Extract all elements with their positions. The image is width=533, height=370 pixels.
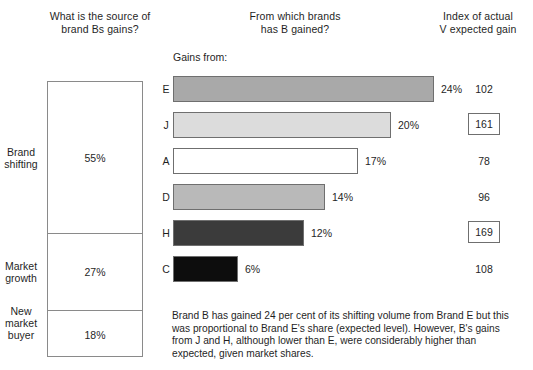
source-segment-value-new-market-buyer: 18% <box>84 329 105 341</box>
bar-value-label-d: 14% <box>332 191 353 203</box>
figure-canvas: What is the source of brand Bs gains? Fr… <box>0 0 533 370</box>
bar-category-label-j: J <box>160 119 172 131</box>
bar-e <box>173 76 434 102</box>
bar-category-label-h: H <box>160 227 172 239</box>
figure-caption: Brand B has gained 24 per cent of its sh… <box>172 310 520 360</box>
bar-value-label-j: 20% <box>398 119 419 131</box>
index-value-a: 78 <box>454 155 514 167</box>
index-value-h: 169 <box>468 221 500 243</box>
bar-value-label-h: 12% <box>311 227 332 239</box>
bar-a <box>173 148 358 174</box>
bar-h <box>173 220 304 246</box>
gains-from-label: Gains from: <box>173 51 227 63</box>
bar-category-label-c: C <box>160 263 172 275</box>
index-value-j: 161 <box>468 113 500 135</box>
index-value-d: 96 <box>454 191 514 203</box>
bar-value-label-c: 6% <box>245 263 260 275</box>
bar-category-label-a: A <box>160 155 172 167</box>
middle-column-heading-line1: From which brands <box>200 10 390 23</box>
left-column-heading-line2: brand Bs gains? <box>10 23 190 36</box>
bar-row: H12% <box>0 220 533 246</box>
index-value-e: 102 <box>454 83 514 95</box>
bar-j <box>173 112 391 138</box>
right-column-heading-line2: V expected gain <box>428 23 528 36</box>
source-segment-label-new-market-buyer: New market buyer <box>0 305 43 341</box>
middle-column-heading-line2: has B gained? <box>200 23 390 36</box>
bar-c <box>173 256 238 282</box>
right-column-heading-line1: Index of actual <box>428 10 528 23</box>
source-segment-new-market-buyer: New market buyer 18% <box>48 310 142 358</box>
bar-row: J20% <box>0 112 533 138</box>
left-column-heading: What is the source of brand Bs gains? <box>10 10 190 36</box>
bar-value-label-a: 17% <box>365 155 386 167</box>
middle-column-heading: From which brands has B gained? <box>200 10 390 36</box>
bar-d <box>173 184 325 210</box>
left-column-heading-line1: What is the source of <box>10 10 190 23</box>
bar-category-label-d: D <box>160 191 172 203</box>
bar-category-label-e: E <box>160 83 172 95</box>
right-column-heading: Index of actual V expected gain <box>428 10 528 36</box>
index-value-c: 108 <box>454 263 514 275</box>
